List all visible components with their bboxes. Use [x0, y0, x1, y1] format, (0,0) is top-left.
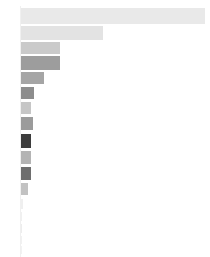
- bar-17: [21, 246, 22, 254]
- bar-6: [21, 87, 34, 99]
- bar-8: [21, 117, 33, 130]
- bar-12: [21, 183, 28, 195]
- bar-9: [21, 134, 31, 148]
- plot-area: [0, 0, 210, 257]
- bar-4: [21, 56, 60, 70]
- bar-5: [21, 72, 44, 84]
- bar-10: [21, 151, 31, 164]
- bar-7: [21, 102, 31, 114]
- bar-16: [21, 236, 22, 244]
- bar-11: [21, 167, 31, 180]
- bar-3: [21, 42, 60, 54]
- bar-13: [21, 199, 23, 209]
- bar-2: [21, 26, 103, 40]
- bar-1: [21, 8, 205, 24]
- bar-15: [21, 224, 22, 233]
- bar-chart: [0, 0, 210, 257]
- bar-14: [21, 212, 22, 221]
